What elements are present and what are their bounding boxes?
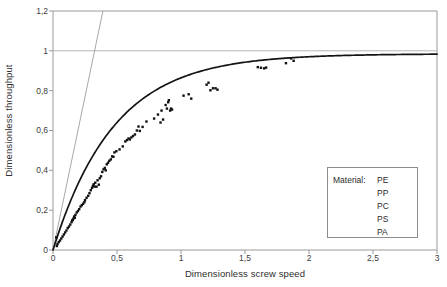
scatter-point <box>96 179 98 181</box>
initial-tangent-line <box>53 11 103 250</box>
scatter-point <box>137 125 139 127</box>
scatter-point <box>78 208 80 210</box>
scatter-point <box>100 175 102 177</box>
scatter-point <box>160 109 162 111</box>
legend-title: Material: <box>333 175 366 185</box>
scatter-point <box>166 107 168 109</box>
legend-item-pc: PC <box>377 201 389 211</box>
scatter-point <box>65 229 67 231</box>
scatter-point <box>90 189 92 191</box>
legend-item-pa: PA <box>377 227 388 237</box>
scatter-point <box>182 94 184 96</box>
scatter-point <box>145 120 147 122</box>
scatter-point <box>87 195 89 197</box>
scatter-point <box>207 82 209 84</box>
scatter-point <box>285 62 287 64</box>
scatter-point <box>69 223 71 225</box>
scatter-point <box>162 118 164 120</box>
scatter-point <box>101 171 103 173</box>
scatter-point <box>212 87 214 89</box>
scatter-point <box>260 67 262 69</box>
scatter-point <box>187 93 189 95</box>
legend-box: Material: PE PP PC PS PA <box>327 167 418 238</box>
scatter-point <box>94 181 96 183</box>
scatter-point <box>164 104 166 106</box>
chart-figure: Dimensionless throughput Dimensionless s… <box>0 0 447 287</box>
scatter-point <box>136 129 138 131</box>
legend-item-pe: PE <box>377 175 388 185</box>
scatter-point <box>74 214 76 216</box>
scatter-point <box>190 97 192 99</box>
scatter-point <box>110 158 112 160</box>
scatter-point <box>141 126 143 128</box>
plot-canvas <box>0 0 447 287</box>
scatter-point <box>134 133 136 135</box>
scatter-point <box>139 130 141 132</box>
scatter-point <box>257 66 259 68</box>
scatter-points <box>55 57 295 247</box>
scatter-point <box>153 117 155 119</box>
legend-item-pp: PP <box>377 188 388 198</box>
scatter-point <box>88 192 90 194</box>
y-axis-ticks <box>49 11 53 250</box>
legend-item-ps: PS <box>377 214 388 224</box>
scatter-point <box>168 99 170 101</box>
scatter-point <box>112 156 114 158</box>
x-axis-ticks <box>53 250 437 254</box>
scatter-point <box>216 88 218 90</box>
scatter-point <box>104 167 106 169</box>
scatter-point <box>84 199 86 201</box>
scatter-point <box>98 183 100 185</box>
scatter-point <box>74 217 76 219</box>
scatter-point <box>209 89 211 91</box>
scatter-point <box>55 236 57 238</box>
scatter-point <box>292 60 294 62</box>
scatter-point <box>118 148 120 150</box>
scatter-point <box>290 57 292 59</box>
scatter-point <box>159 121 161 123</box>
scatter-point <box>157 113 159 115</box>
scatter-point <box>171 108 173 110</box>
scatter-point <box>265 66 267 68</box>
scatter-point <box>115 150 117 152</box>
scatter-point <box>122 145 124 147</box>
scatter-point <box>95 185 97 187</box>
scatter-point <box>105 169 107 171</box>
